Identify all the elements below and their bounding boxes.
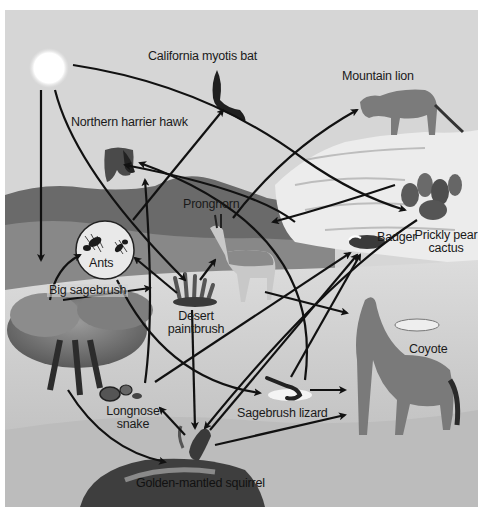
label-snake-line2: snake	[103, 418, 163, 431]
label-sagebrush-lizard: Sagebrush lizard	[237, 407, 328, 420]
label-prickly-pear-line2: cactus	[413, 242, 478, 255]
label-badger: Badger	[377, 231, 416, 244]
label-california-myotis-bat: California myotis bat	[148, 50, 257, 63]
ants-illustration	[76, 221, 134, 279]
label-golden-mantled-squirrel: Golden-mantled squirrel	[136, 477, 265, 490]
label-ants: Ants	[89, 257, 113, 270]
label-prickly-pear-cactus: Prickly pear cactus	[413, 229, 478, 255]
label-big-sagebrush: Big sagebrush	[47, 284, 128, 297]
label-longnose-snake: Longnose snake	[103, 405, 163, 431]
label-paintbrush-line2: paintbrush	[165, 323, 227, 336]
label-northern-harrier-hawk: Northern harrier hawk	[71, 116, 188, 129]
food-web-scene	[5, 10, 478, 507]
food-web-diagram: California myotis bat Mountain lion Nort…	[5, 10, 478, 507]
label-desert-paintbrush: Desert paintbrush	[165, 310, 227, 336]
label-pronghorn: Pronghorn	[183, 198, 240, 211]
sun-icon	[29, 48, 69, 88]
label-coyote: Coyote	[409, 343, 447, 356]
label-mountain-lion: Mountain lion	[342, 70, 414, 83]
